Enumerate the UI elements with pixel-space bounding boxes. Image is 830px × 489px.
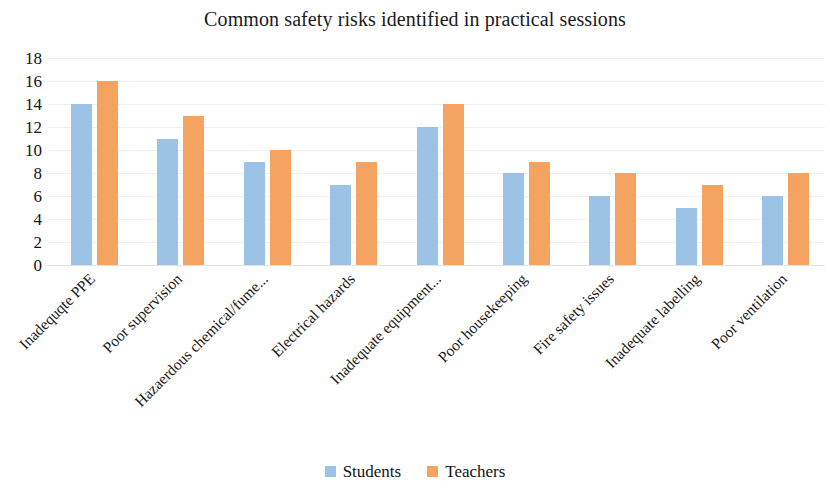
y-tick-label: 16 [25, 73, 42, 90]
bar-teachers [183, 116, 204, 266]
bar-group [503, 58, 550, 265]
bar-students [157, 139, 178, 266]
bar-students [330, 185, 351, 266]
bar-group [244, 58, 291, 265]
legend-item-students[interactable]: Students [325, 463, 402, 480]
bar-teachers [270, 150, 291, 265]
bar-students [71, 104, 92, 265]
y-tick-label: 10 [25, 142, 42, 159]
chart-title: Common safety risks identified in practi… [0, 8, 830, 31]
plot-area [47, 58, 825, 265]
bar-teachers [97, 81, 118, 265]
x-tick-label-text: Poor supervision [99, 270, 186, 357]
bar-group [417, 58, 464, 265]
y-tick-label: 4 [34, 211, 43, 228]
bar-group [330, 58, 377, 265]
legend-label: Students [343, 463, 402, 480]
legend-swatch-icon [427, 466, 438, 477]
bar-chart: Common safety risks identified in practi… [0, 0, 830, 489]
x-tick-label-text: Electrical hazards [267, 270, 358, 361]
y-tick-label: 18 [25, 50, 42, 67]
y-tick-label: 14 [25, 96, 42, 113]
x-tick-label-text: Inadequate labelling [602, 270, 704, 372]
bar-teachers [788, 173, 809, 265]
bar-students [244, 162, 265, 266]
bar-teachers [615, 173, 636, 265]
bar-students [417, 127, 438, 265]
legend-swatch-icon [325, 466, 336, 477]
bar-teachers [443, 104, 464, 265]
legend-item-teachers[interactable]: Teachers [427, 463, 505, 480]
bar-group [157, 58, 204, 265]
legend-label: Teachers [445, 463, 505, 480]
x-tick-label-text: Inadequqte PPE [16, 270, 99, 353]
y-tick-label: 12 [25, 119, 42, 136]
y-tick-label: 8 [34, 165, 43, 182]
bar-group [676, 58, 723, 265]
y-tick-label: 2 [34, 234, 43, 251]
y-axis: 181614121086420 [8, 58, 42, 265]
chart-legend: StudentsTeachers [0, 463, 830, 480]
bar-group [762, 58, 809, 265]
bar-teachers [356, 162, 377, 266]
bar-teachers [702, 185, 723, 266]
x-tick-label-text: Fire safety issues [529, 270, 617, 358]
x-tick-label-text: Poor ventilation [707, 270, 790, 353]
bar-group [71, 58, 118, 265]
bar-group [589, 58, 636, 265]
bar-students [589, 196, 610, 265]
x-axis-category-labels: Inadequqte PPEPoor supervisionHazaerdous… [0, 266, 830, 391]
bar-teachers [529, 162, 550, 266]
bar-students [503, 173, 524, 265]
y-tick-label: 6 [34, 188, 43, 205]
x-tick-label-text: Poor housekeeping [435, 270, 531, 366]
bar-students [762, 196, 783, 265]
bar-students [676, 208, 697, 266]
